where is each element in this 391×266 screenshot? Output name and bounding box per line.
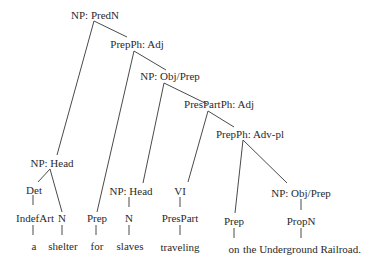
word-slaves: slaves xyxy=(117,240,144,252)
node-np-obj-prep: NP: Obj/Prep xyxy=(140,70,200,82)
node-vi: VI xyxy=(174,185,186,197)
word-the-underground-railroad: the Underground Railroad. xyxy=(243,243,361,255)
word-traveling: traveling xyxy=(160,241,199,253)
node-prepph-adv-pl: PrepPh: Adv-pl xyxy=(216,128,284,140)
word-on: on xyxy=(229,243,240,255)
word-for: for xyxy=(91,240,104,252)
tree-edges xyxy=(0,0,391,266)
node-prepph-adj: PrepPh: Adj xyxy=(110,38,163,50)
node-prep: Prep xyxy=(87,212,107,224)
node-indefart: IndefArt xyxy=(16,212,54,224)
node-prep: Prep xyxy=(224,215,244,227)
word-a: a xyxy=(32,240,37,252)
node-prespartph-adj: PresPartPh: Adj xyxy=(184,98,254,110)
node-prespart: PresPart xyxy=(162,212,199,224)
node-det: Det xyxy=(26,184,42,196)
word-shelter: shelter xyxy=(48,240,77,252)
node-n: N xyxy=(125,212,133,224)
node-np-obj-prep: NP: Obj/Prep xyxy=(271,187,331,199)
node-n: N xyxy=(58,212,66,224)
node-np-head: NP: Head xyxy=(109,185,152,197)
node-np-head: NP: Head xyxy=(30,157,73,169)
node-propn: PropN xyxy=(287,215,316,227)
node-np-predn: NP: PredN xyxy=(71,9,119,21)
